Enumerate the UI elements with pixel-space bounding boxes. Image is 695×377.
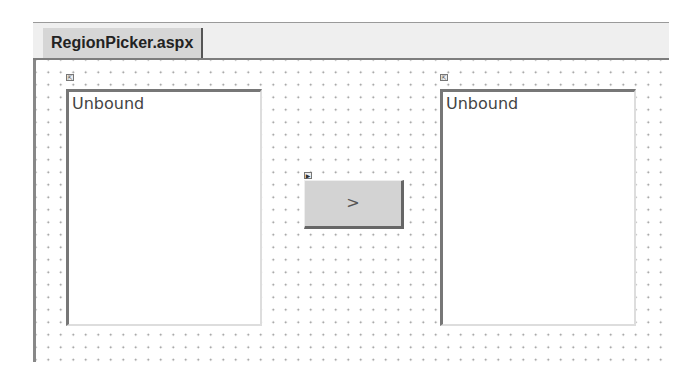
list-item[interactable]: Unbound: [69, 92, 260, 115]
tab-regionpicker[interactable]: RegionPicker.aspx: [43, 28, 203, 58]
list-item[interactable]: Unbound: [443, 92, 634, 115]
left-listbox[interactable]: Unbound: [66, 89, 262, 326]
control-glyph-icon: ▶: [304, 172, 312, 179]
move-right-button[interactable]: >: [304, 180, 404, 229]
document-tabstrip: RegionPicker.aspx: [33, 22, 669, 60]
right-listbox[interactable]: Unbound: [440, 89, 636, 326]
control-glyph-icon: ⇱: [440, 74, 448, 81]
design-surface[interactable]: ⇱ Unbound ▶ > ⇱ Unbound: [33, 60, 669, 362]
designer-window: RegionPicker.aspx ⇱ Unbound ▶ > ⇱ Unboun…: [33, 22, 669, 362]
control-glyph-icon: ⇱: [66, 74, 74, 81]
